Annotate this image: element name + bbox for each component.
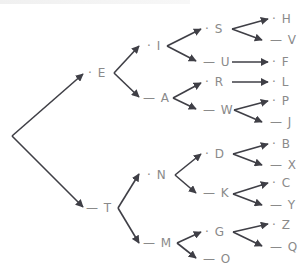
edge-d-to-b: [233, 144, 268, 154]
edge-m-to-g: [177, 232, 201, 243]
node-letter: X: [284, 158, 296, 172]
node-e: · E: [88, 66, 105, 80]
edge-k-to-y: [233, 194, 262, 205]
node-letter: D: [211, 147, 224, 161]
dot-symbol: ·: [272, 176, 276, 190]
node-d: · D: [205, 147, 224, 161]
dot-symbol: ·: [205, 22, 209, 36]
dot-symbol: ·: [272, 94, 276, 108]
node-letter: Y: [284, 198, 295, 212]
edge-s-to-v: [232, 29, 262, 40]
node-g: · G: [205, 225, 224, 239]
dash-symbol: —: [143, 236, 155, 250]
node-t: — T: [86, 201, 111, 215]
node-letter: O: [217, 252, 230, 266]
node-o: — O: [203, 252, 230, 266]
node-letter: J: [284, 115, 291, 129]
node-m: — M: [143, 236, 171, 250]
node-letter: Q: [284, 240, 297, 254]
node-letter: G: [211, 225, 224, 239]
node-u: — U: [203, 55, 230, 69]
edge-root-to-t: [12, 136, 83, 207]
edge-e-to-i: [114, 46, 139, 73]
dash-symbol: —: [270, 115, 282, 129]
node-letter: B: [278, 137, 290, 151]
edge-w-to-j: [234, 110, 262, 122]
dash-symbol: —: [86, 201, 98, 215]
dot-symbol: ·: [205, 225, 209, 239]
edge-g-to-z: [233, 224, 268, 232]
edge-d-to-x: [233, 154, 262, 165]
node-letter: L: [278, 75, 289, 89]
node-letter: T: [100, 201, 111, 215]
node-letter: W: [217, 103, 233, 117]
edge-n-to-d: [175, 154, 201, 175]
node-f: · F: [272, 55, 289, 69]
node-letter: E: [94, 66, 105, 80]
node-w: — W: [203, 103, 233, 117]
node-letter: V: [284, 33, 296, 47]
node-v: — V: [270, 33, 296, 47]
node-i: · I: [147, 39, 160, 53]
node-letter: Z: [278, 218, 290, 232]
node-b: · B: [272, 137, 290, 151]
edge-t-to-m: [118, 208, 139, 243]
dot-symbol: ·: [272, 55, 276, 69]
node-c: · C: [272, 176, 290, 190]
edge-e-to-a: [114, 73, 139, 97]
dash-symbol: —: [203, 103, 215, 117]
node-y: — Y: [270, 198, 295, 212]
dot-symbol: ·: [272, 218, 276, 232]
dot-symbol: ·: [272, 75, 276, 89]
node-x: — X: [270, 158, 296, 172]
dash-symbol: —: [203, 252, 215, 266]
node-letter: S: [211, 22, 222, 36]
node-j: — J: [270, 115, 291, 129]
dot-symbol: ·: [272, 12, 276, 26]
edge-k-to-c: [233, 183, 268, 194]
dash-symbol: —: [270, 158, 282, 172]
node-letter: R: [211, 75, 223, 89]
edge-i-to-s: [167, 29, 201, 46]
edge-t-to-n: [118, 174, 139, 208]
node-q: — Q: [270, 240, 297, 254]
dot-symbol: ·: [88, 66, 92, 80]
edge-w-to-p: [234, 101, 268, 110]
dot-symbol: ·: [205, 75, 209, 89]
edge-i-to-u: [167, 46, 196, 61]
node-k: — K: [203, 186, 229, 200]
node-letter: F: [278, 55, 289, 69]
edge-m-to-o: [177, 243, 196, 258]
dash-symbol: —: [270, 33, 282, 47]
dot-symbol: ·: [205, 147, 209, 161]
dot-symbol: ·: [272, 137, 276, 151]
edge-a-to-r: [173, 83, 201, 98]
node-s: · S: [205, 22, 222, 36]
node-letter: C: [278, 176, 290, 190]
node-a: — A: [143, 91, 169, 105]
node-letter: I: [153, 39, 160, 53]
node-p: · P: [272, 94, 289, 108]
edge-root-to-e: [12, 74, 83, 136]
node-l: · L: [272, 75, 288, 89]
dash-symbol: —: [203, 55, 215, 69]
dash-symbol: —: [270, 240, 282, 254]
node-letter: K: [217, 186, 229, 200]
node-r: · R: [205, 75, 223, 89]
edge-g-to-q: [233, 232, 262, 246]
node-letter: P: [278, 94, 289, 108]
node-letter: H: [278, 12, 291, 26]
node-n: · N: [147, 168, 166, 182]
dot-symbol: ·: [147, 39, 151, 53]
dash-symbol: —: [203, 186, 215, 200]
node-letter: M: [157, 236, 171, 250]
node-letter: N: [153, 168, 166, 182]
dot-symbol: ·: [147, 168, 151, 182]
node-letter: U: [217, 55, 230, 69]
node-letter: A: [157, 91, 169, 105]
dash-symbol: —: [270, 198, 282, 212]
node-h: · H: [272, 12, 291, 26]
edge-a-to-w: [173, 98, 196, 109]
node-z: · Z: [272, 218, 290, 232]
dash-symbol: —: [143, 91, 155, 105]
